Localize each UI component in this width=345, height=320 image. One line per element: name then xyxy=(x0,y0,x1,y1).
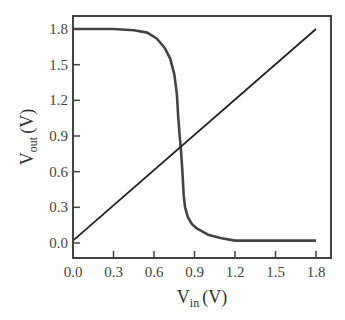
y-tick-label: 0.6 xyxy=(49,164,68,180)
plot-area xyxy=(73,29,316,241)
x-tick-label: 0.6 xyxy=(145,264,164,280)
x-tick-label: 0.3 xyxy=(104,264,123,280)
axes-frame xyxy=(73,16,331,258)
x-tick-label: 1.2 xyxy=(226,264,245,280)
x-tick-label: 1.5 xyxy=(266,264,285,280)
x-axis-label: Vin(V) xyxy=(177,287,227,310)
x-tick-label: 0.0 xyxy=(64,264,83,280)
x-tick-label: 1.8 xyxy=(307,264,326,280)
x-tick-label: 0.9 xyxy=(185,264,204,280)
y-tick-label: 0.0 xyxy=(49,235,68,251)
y-tick-label: 1.8 xyxy=(49,21,68,37)
vtc-chart: 0.00.30.60.91.21.51.8 0.00.30.60.91.21.5… xyxy=(0,0,345,320)
y-axis-label: Vout(V) xyxy=(17,109,40,165)
x-axis-ticks: 0.00.30.60.91.21.51.8 xyxy=(64,251,326,280)
y-tick-label: 1.5 xyxy=(49,57,68,73)
y-tick-label: 1.2 xyxy=(49,92,68,108)
y-axis-ticks: 0.00.30.60.91.21.51.8 xyxy=(49,21,80,251)
unity-line xyxy=(73,29,316,241)
y-tick-label: 0.9 xyxy=(49,128,68,144)
y-tick-label: 0.3 xyxy=(49,199,68,215)
